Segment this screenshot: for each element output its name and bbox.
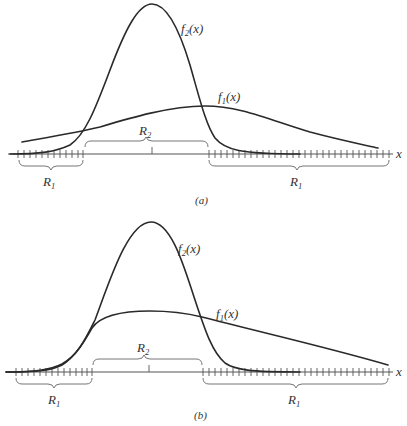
curve-f1-a	[22, 106, 378, 148]
label-f1-a: f1(x)	[218, 89, 240, 106]
label-f2-b: f2(x)	[178, 241, 200, 258]
brace-r1-left-a	[19, 160, 83, 170]
axis-label-x-b: x	[395, 364, 402, 379]
label-r1-right-b: R1	[287, 392, 300, 409]
label-r1-left-a: R1	[42, 174, 55, 191]
axis-ticks-a	[18, 147, 389, 158]
caption-b: (b)	[194, 409, 207, 422]
label-r1-right-a: R1	[289, 174, 302, 191]
brace-r1-right-a	[209, 160, 389, 170]
axis-ticks-b	[16, 365, 389, 376]
label-f2-a: f2(x)	[181, 21, 203, 38]
brace-r1-left-b	[16, 378, 92, 388]
panel-b: x f2(x) f1(x) R1 R2 R1 (b)	[6, 222, 402, 422]
label-r1-left-b: R1	[47, 392, 60, 409]
curve-f2-b	[6, 222, 300, 372]
caption-a: (a)	[195, 194, 208, 207]
panel-a: x f2(x) f1(x) R1 R2 R1 (a)	[8, 4, 402, 207]
axis-label-x-a: x	[395, 146, 402, 161]
brace-r1-right-b	[203, 378, 388, 388]
classification-regions-figure: x f2(x) f1(x) R1 R2 R1 (a)	[0, 0, 407, 426]
label-r2-b: R2	[136, 340, 150, 357]
label-r2-a: R2	[138, 123, 152, 140]
label-f1-b: f1(x)	[216, 306, 238, 323]
curve-f2-a	[10, 4, 300, 154]
